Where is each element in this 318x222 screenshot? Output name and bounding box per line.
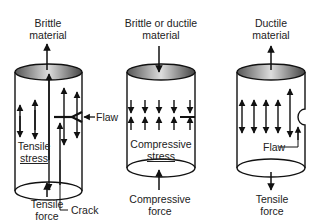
brittle-title-line2: material — [18, 29, 78, 41]
crack-flaw — [54, 112, 82, 122]
flaw-label: Flaw — [96, 111, 118, 123]
compressive-stress-arrows — [131, 100, 190, 130]
ductile-flaw-label: Flaw — [263, 141, 285, 153]
compression-title-line2: material — [116, 29, 206, 41]
ductile-title-line1: Ductile — [241, 17, 301, 29]
tensile-force-line2: force — [25, 210, 69, 222]
ductile-cylinder — [237, 64, 305, 177]
compression-title: Brittle or ductile material — [116, 17, 206, 41]
tensile-stress-line1: Tensile — [14, 140, 54, 152]
compressive-force-label: Compressive force — [125, 193, 195, 217]
tensile-force-line1: Tensile — [25, 198, 69, 210]
ductile-tensile-force-label: Tensile force — [250, 193, 294, 217]
tensile-force-label: Tensile force — [25, 198, 69, 222]
brittle-title: Brittle material — [18, 17, 78, 41]
compressive-stress-label: Compressive stress — [129, 138, 193, 162]
ductile-tensile-force-line2: force — [250, 205, 294, 217]
tensile-stress-line2: stress — [14, 152, 54, 164]
ductile-title-line2: material — [241, 29, 301, 41]
ductile-tensile-force-line1: Tensile — [250, 193, 294, 205]
tensile-stress-arrows — [20, 74, 77, 190]
ductile-title: Ductile material — [241, 17, 301, 41]
compressive-force-line2: force — [125, 205, 195, 217]
tensile-stress-label: Tensile stress — [14, 140, 54, 164]
compression-title-line1: Brittle or ductile — [116, 17, 206, 29]
compressive-force-line1: Compressive — [125, 193, 195, 205]
crack-label: Crack — [71, 204, 98, 216]
compressive-stress-line1: Compressive — [129, 138, 193, 150]
brittle-title-line1: Brittle — [18, 17, 78, 29]
ductile-stress-arrows — [242, 89, 290, 137]
compressive-stress-line2: stress — [129, 150, 193, 162]
